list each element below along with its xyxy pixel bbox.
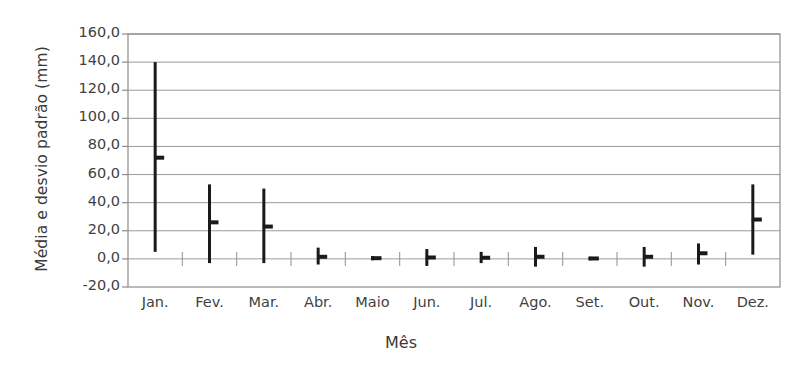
plot-frame [128, 34, 780, 287]
y-tick-label: 40,0 [58, 193, 120, 209]
x-tick-label: Abr. [288, 294, 348, 310]
x-tick-label: Maio [343, 294, 403, 310]
chart-figure: Média e desvio padrão (mm) Mês 160,0140,… [0, 0, 802, 375]
error-bar [317, 248, 327, 265]
y-tick-label: 80,0 [58, 136, 120, 152]
y-tick-label: 100,0 [58, 108, 120, 124]
error-bar [209, 184, 219, 263]
x-tick-label: Jul. [451, 294, 511, 310]
error-bar [263, 189, 273, 263]
y-tick-label: 20,0 [58, 221, 120, 237]
y-tick-label: -20,0 [58, 277, 120, 293]
error-bar [480, 252, 490, 263]
x-tick-label: Nov. [669, 294, 729, 310]
y-tick-label: 120,0 [58, 80, 120, 96]
error-bar [752, 184, 762, 254]
plot-area [0, 0, 802, 375]
x-tick-label: Ago. [506, 294, 566, 310]
x-tick-label: Set. [560, 294, 620, 310]
x-tick-label: Fev. [180, 294, 240, 310]
x-tick-label: Dez. [723, 294, 783, 310]
y-tick-label: 0,0 [58, 249, 120, 265]
error-bar [372, 256, 382, 260]
y-tick-label: 140,0 [58, 52, 120, 68]
y-tick-label: 160,0 [58, 24, 120, 40]
error-bar [535, 247, 545, 267]
error-bar [698, 243, 708, 264]
error-bar [643, 247, 653, 267]
x-tick-label: Out. [614, 294, 674, 310]
x-tick-label: Jan. [125, 294, 185, 310]
error-bar [589, 257, 599, 261]
x-tick-label: Mar. [234, 294, 294, 310]
y-tick-label: 60,0 [58, 165, 120, 181]
error-bar [426, 249, 436, 266]
x-tick-label: Jun. [397, 294, 457, 310]
